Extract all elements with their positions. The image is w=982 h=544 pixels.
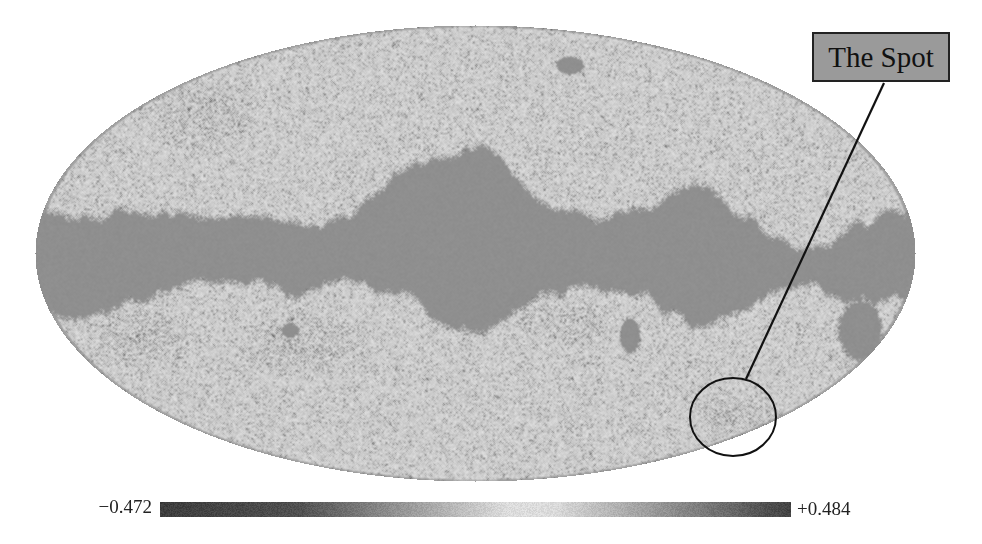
colorbar-gradient	[160, 502, 791, 517]
sky-map-figure: The Spot −0.472 +0.484	[0, 0, 982, 544]
colorbar-min-label: −0.472	[99, 496, 152, 518]
spot-label-box: The Spot	[812, 32, 950, 82]
colorbar-max-label: +0.484	[797, 498, 850, 520]
spot-label-text: The Spot	[828, 41, 934, 74]
colorbar: −0.472 +0.484	[0, 494, 982, 524]
